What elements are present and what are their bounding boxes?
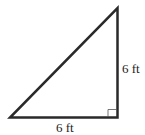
vertical-leg-label: 6 ft	[122, 62, 140, 75]
right-angle-marker	[108, 110, 117, 118]
horizontal-leg-label: 6 ft	[56, 121, 74, 134]
right-triangle	[10, 8, 118, 118]
